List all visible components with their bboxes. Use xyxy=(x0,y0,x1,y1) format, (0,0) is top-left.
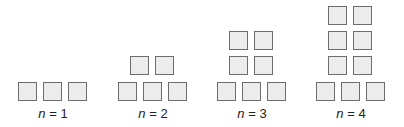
square-tile xyxy=(68,82,87,101)
square-tile xyxy=(316,82,335,101)
square-tile xyxy=(43,82,62,101)
square-tile xyxy=(328,31,347,50)
square-tile xyxy=(155,56,174,75)
square-tile xyxy=(353,31,372,50)
square-tile xyxy=(366,82,385,101)
square-tile xyxy=(254,31,273,50)
square-tile xyxy=(229,56,248,75)
square-tile xyxy=(130,56,149,75)
square-tile xyxy=(143,82,162,101)
figure-label-n1: n = 1 xyxy=(13,106,93,121)
square-tile xyxy=(341,82,360,101)
figure-label-n3: n = 3 xyxy=(212,106,292,121)
square-tile xyxy=(18,82,37,101)
square-tile xyxy=(267,82,286,101)
square-tile xyxy=(328,6,347,25)
square-tile xyxy=(168,82,187,101)
square-tile xyxy=(229,31,248,50)
square-tile xyxy=(353,56,372,75)
square-tile xyxy=(328,56,347,75)
square-tile xyxy=(353,6,372,25)
figure-label-n2: n = 2 xyxy=(113,106,193,121)
square-tile xyxy=(118,82,137,101)
square-tile xyxy=(254,56,273,75)
square-tile xyxy=(242,82,261,101)
square-tile xyxy=(217,82,236,101)
figure-label-n4: n = 4 xyxy=(311,106,391,121)
